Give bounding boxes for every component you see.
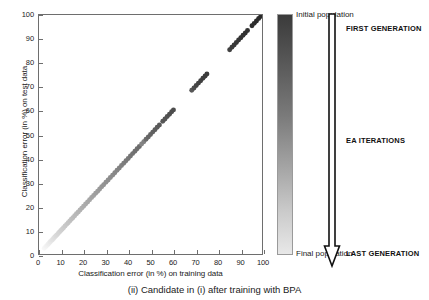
scatter-points-layer xyxy=(39,15,262,254)
y-tick xyxy=(39,184,43,185)
y-tick-label: 100 xyxy=(14,10,34,19)
y-tick-label: 90 xyxy=(14,34,34,43)
ea-iterations-arrow-icon xyxy=(322,12,342,270)
x-tick-label: 50 xyxy=(146,258,154,267)
figure-caption: (ii) Candidate in (i) after training wit… xyxy=(0,284,429,295)
x-tick-label: 100 xyxy=(257,258,269,267)
x-tick-label: 40 xyxy=(124,258,132,267)
y-tick xyxy=(39,232,43,233)
y-axis-label: Classification error (in %) on test data xyxy=(20,52,29,212)
y-tick xyxy=(39,63,43,64)
y-tick xyxy=(39,111,43,112)
x-tick xyxy=(264,250,265,254)
last-generation-label: LAST GENERATION xyxy=(346,249,419,258)
x-tick xyxy=(219,250,220,254)
x-tick-label: 10 xyxy=(56,258,64,267)
x-tick-label: 80 xyxy=(214,258,222,267)
y-tick xyxy=(39,208,43,209)
x-tick xyxy=(107,250,108,254)
x-tick-label: 90 xyxy=(236,258,244,267)
figure-panel: 0102030405060708090100010203040506070809… xyxy=(0,0,429,300)
first-generation-label: FIRST GENERATION xyxy=(346,24,422,33)
x-tick xyxy=(242,250,243,254)
y-tick xyxy=(39,136,43,137)
y-tick xyxy=(39,256,43,257)
scatter-point xyxy=(204,72,209,77)
y-tick xyxy=(39,160,43,161)
generation-colorbar xyxy=(277,14,293,255)
x-tick-label: 30 xyxy=(101,258,109,267)
x-tick xyxy=(197,250,198,254)
scatter-plot-area xyxy=(38,14,263,255)
x-tick xyxy=(84,250,85,254)
ea-iterations-label: EA ITERATIONS xyxy=(346,136,405,145)
x-tick xyxy=(62,250,63,254)
x-tick xyxy=(129,250,130,254)
x-tick-label: 70 xyxy=(191,258,199,267)
scatter-point xyxy=(171,107,176,112)
x-tick xyxy=(39,250,40,254)
y-tick xyxy=(39,15,43,16)
x-tick xyxy=(174,250,175,254)
x-tick-label: 20 xyxy=(79,258,87,267)
y-tick xyxy=(39,87,43,88)
x-tick-label: 60 xyxy=(169,258,177,267)
y-tick xyxy=(39,39,43,40)
scatter-point xyxy=(245,28,250,33)
y-tick-label: 10 xyxy=(14,226,34,235)
x-axis-label: Classification error (in %) on training … xyxy=(38,269,263,278)
y-tick-label: 0 xyxy=(14,251,34,260)
x-tick-label: 0 xyxy=(36,258,40,267)
x-tick xyxy=(152,250,153,254)
